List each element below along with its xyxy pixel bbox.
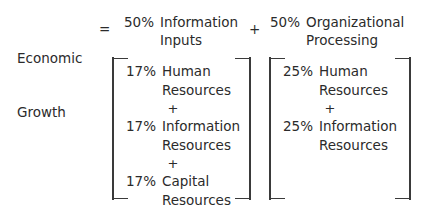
term-organizational-processing: 50% Organizational Processing <box>266 13 404 49</box>
bracket-right-bottom-gap <box>285 197 395 200</box>
breakdown-2-item-2-line-2: Resources <box>319 136 388 155</box>
breakdown-1-item-1: 17% Human <box>122 62 240 81</box>
breakdown-1-item-2: 17% Information <box>122 117 240 136</box>
term-2-label: Organizational Processing <box>306 13 404 49</box>
breakdown-1-item-1-cont: Resources <box>122 81 240 100</box>
breakdown-1-item-1-line-1: Human <box>162 62 211 81</box>
term-2-line-1: Organizational <box>306 13 404 31</box>
breakdown-1-item-3-line-1: Capital <box>162 172 209 191</box>
term-1-line-1: Information <box>160 13 238 31</box>
lhs-line-1: Economic <box>17 49 97 67</box>
breakdown-1-item-3-line-2: Resources <box>162 191 231 210</box>
breakdown-1-item-1-line-2: Resources <box>162 81 231 100</box>
breakdown-1-item-3-percent: 17% <box>122 172 156 191</box>
breakdown-2-item-2-line-1: Information <box>319 117 397 136</box>
breakdown-1-item-3-cont: Resources <box>122 191 240 210</box>
breakdown-2-item-1-line-1: Human <box>319 62 368 81</box>
bracket-left-top-gap <box>128 57 235 60</box>
breakdown-2-item-1-cont: Resources <box>279 81 397 100</box>
breakdown-2-item-2-cont: Resources <box>279 136 397 155</box>
term-1-percent: 50% <box>120 13 154 31</box>
economic-growth-equation-diagram: Economic Growth = 50% Information Inputs… <box>0 0 433 214</box>
breakdown-2-item-2: 25% Information <box>279 117 397 136</box>
breakdown-1-item-2-cont: Resources <box>122 136 240 155</box>
breakdown-1-operator-2: + <box>132 155 214 172</box>
breakdown-information-inputs: 17% Human Resources + 17% Information Re… <box>122 62 240 210</box>
equation-left-hand-side: Economic Growth <box>17 13 97 157</box>
breakdown-1-operator-1: + <box>132 100 214 117</box>
term-1-label: Information Inputs <box>160 13 238 49</box>
breakdown-2-item-1-percent: 25% <box>279 62 313 81</box>
lhs-line-2: Growth <box>17 103 97 121</box>
breakdown-1-item-2-line-1: Information <box>162 117 240 136</box>
breakdown-organizational-processing: 25% Human Resources + 25% Information Re… <box>279 62 397 155</box>
breakdown-1-item-2-line-2: Resources <box>162 136 231 155</box>
bracket-right-top-gap <box>285 57 395 60</box>
term-2-line-2: Processing <box>306 31 404 49</box>
breakdown-2-item-1-line-2: Resources <box>319 81 388 100</box>
breakdown-2-operator-1: + <box>289 100 371 117</box>
term-2-percent: 50% <box>266 13 300 31</box>
term-information-inputs: 50% Information Inputs <box>120 13 238 49</box>
plus-sign-main: + <box>249 23 260 37</box>
breakdown-1-item-3: 17% Capital <box>122 172 240 191</box>
equals-sign: = <box>99 23 110 37</box>
breakdown-1-item-2-percent: 17% <box>122 117 156 136</box>
breakdown-2-item-2-percent: 25% <box>279 117 313 136</box>
breakdown-2-item-1: 25% Human <box>279 62 397 81</box>
breakdown-1-item-1-percent: 17% <box>122 62 156 81</box>
term-1-line-2: Inputs <box>160 31 238 49</box>
